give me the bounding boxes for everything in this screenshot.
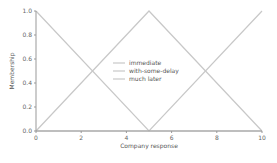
- y-tick-label: 0.4: [22, 79, 32, 86]
- x-tick-label: 8: [215, 134, 219, 141]
- membership-chart: 0.00.20.40.60.81.0 0246810 Company respo…: [0, 0, 277, 163]
- y-tick-label: 1.0: [22, 7, 32, 14]
- x-ticks: 0246810: [34, 131, 266, 141]
- y-axis-label: Membership: [8, 52, 16, 89]
- legend-label: with-some-delay: [129, 67, 179, 75]
- y-tick-label: 0.2: [22, 103, 32, 110]
- y-tick-label: 0.8: [22, 31, 32, 38]
- legend: immediatewith-some-delaymuch later: [113, 59, 179, 82]
- y-tick-label: 0.6: [22, 55, 32, 62]
- x-tick-label: 10: [258, 134, 266, 141]
- y-ticks: 0.00.20.40.60.81.0: [22, 7, 36, 134]
- x-tick-label: 6: [170, 134, 174, 141]
- y-tick-label: 0.0: [22, 127, 32, 134]
- legend-label: immediate: [129, 59, 162, 66]
- x-tick-label: 0: [34, 134, 38, 141]
- x-tick-label: 2: [79, 134, 83, 141]
- x-axis-label: Company response: [120, 142, 178, 150]
- legend-label: much later: [129, 75, 162, 82]
- x-tick-label: 4: [124, 134, 128, 141]
